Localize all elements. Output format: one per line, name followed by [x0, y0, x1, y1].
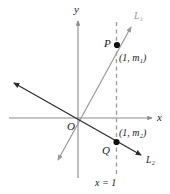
- point-P-label: P: [104, 38, 111, 49]
- x-axis-label: x: [157, 112, 162, 123]
- line-L1-label: L₁: [134, 11, 143, 21]
- y-axis-label: y: [74, 4, 79, 15]
- origin-label: O: [67, 121, 75, 132]
- figure-coordinate-plane: y x O P (1, m₁) Q (1, m₂) L₁ L₂ x = 1: [0, 0, 170, 194]
- vertical-line-equation-label: x = 1: [95, 178, 116, 188]
- line-L2-label: L₂: [146, 155, 155, 165]
- point-Q-coordinates: (1, m₂): [119, 128, 146, 138]
- line-L1: [58, 27, 131, 160]
- point-Q-label: Q: [102, 145, 110, 156]
- figure-canvas: [0, 0, 170, 194]
- point-P-coordinates: (1, m₁): [119, 53, 146, 63]
- point-P-dot: [114, 42, 120, 48]
- point-Q-dot: [113, 139, 119, 145]
